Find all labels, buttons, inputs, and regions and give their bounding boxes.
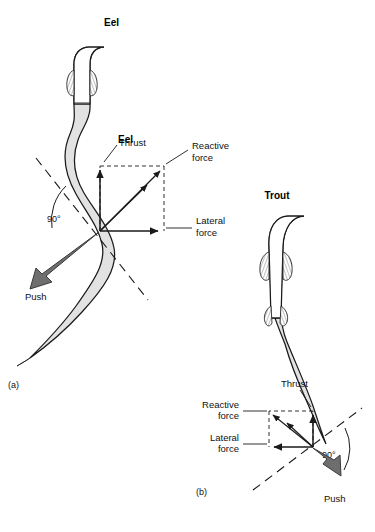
trout-reactive-force-label-2: force	[218, 410, 239, 421]
eel-reactive-force-label-1: Reactive	[192, 140, 229, 151]
eel-species-title: Eel	[104, 17, 119, 28]
trout-push-label: Push	[324, 493, 346, 504]
trout-thrust-label: Thrust	[281, 378, 308, 389]
eel-reactive-force-label-2: force	[192, 152, 213, 163]
eel-thrust-label: Thrust	[119, 137, 146, 148]
eel-panel-label: (a)	[8, 380, 19, 390]
eel-lateral-force-label-2: force	[196, 227, 217, 238]
eel-push-label: Push	[25, 291, 47, 302]
locomotion-figure: 90° Eel Eel Thrust Reactive force Latera…	[0, 0, 375, 532]
eel-lateral-force-label-1: Lateral	[196, 215, 225, 226]
figure-canvas: 90° Eel Eel Thrust Reactive force Latera…	[0, 0, 375, 532]
trout-title: Trout	[265, 190, 291, 201]
trout-lateral-force-label-2: force	[218, 443, 239, 454]
eel-angle-label: 90°	[47, 214, 61, 224]
trout-reactive-force-label-1: Reactive	[202, 399, 239, 410]
trout-panel-label: (b)	[196, 487, 207, 497]
trout-lateral-force-label-1: Lateral	[210, 432, 239, 443]
